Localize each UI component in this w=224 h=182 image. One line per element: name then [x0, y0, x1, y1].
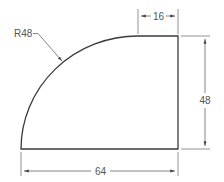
- radius-label: R48: [14, 28, 33, 39]
- dimension-height: 48: [181, 36, 211, 149]
- height-label: 48: [199, 95, 211, 106]
- dimension-top-flat: 16: [138, 9, 178, 34]
- drawing-canvas: 16 48 64 R48: [0, 0, 224, 182]
- top-flat-label: 16: [153, 11, 165, 22]
- width-label: 64: [95, 166, 107, 177]
- dimension-radius: R48: [14, 28, 62, 61]
- part-outline: [21, 36, 178, 149]
- dimension-width: 64: [21, 152, 178, 177]
